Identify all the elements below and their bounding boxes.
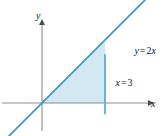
vertical-line-equation-label: x=3 — [116, 78, 133, 88]
line-equation-variable: x — [151, 45, 155, 56]
line-equation-label: y=2x — [134, 46, 156, 56]
y-axis-label: y — [36, 11, 40, 21]
x-axis-label: x — [151, 99, 155, 109]
coordinate-plot — [0, 0, 163, 136]
vertical-line-equation-value: 3 — [128, 77, 133, 88]
vertical-line-equation-operator: = — [120, 77, 128, 88]
figure-container: 161. y x y=2x x=3 — [0, 0, 163, 136]
